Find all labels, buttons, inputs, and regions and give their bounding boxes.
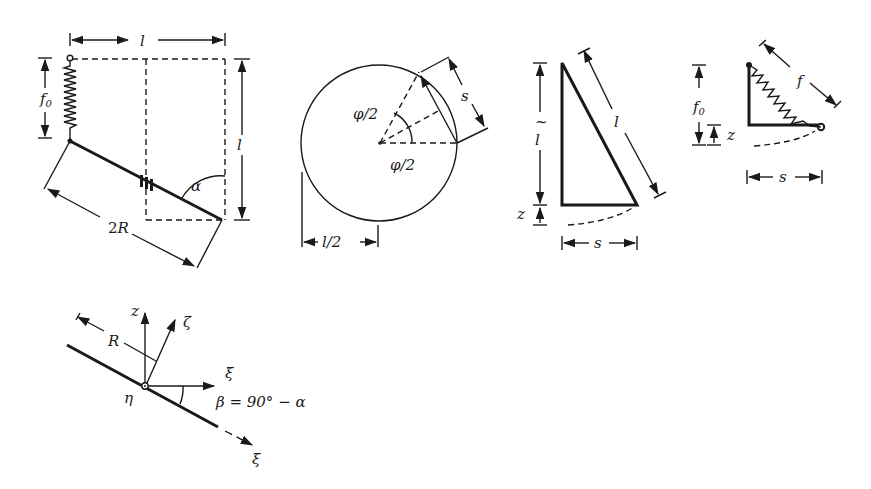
label-horizontal: s <box>594 234 602 252</box>
label-horizontal: s <box>779 168 787 186</box>
label-rod-length: 2R <box>108 219 129 237</box>
label-upper-angle: φ/2 <box>353 105 378 123</box>
label-drop: z <box>516 205 525 223</box>
spring-icon <box>749 65 821 127</box>
panel-triangle-pendulum: ~ l z l s <box>516 48 666 252</box>
spring-icon <box>64 61 76 140</box>
label-angle-alpha: α <box>191 177 201 195</box>
panel-pendulum-spring-rod: l l f0 α 2R <box>38 32 250 268</box>
mechanics-figure: l l f0 α 2R <box>0 0 871 489</box>
label-xi-axis: ξ <box>252 450 261 468</box>
triangle <box>749 65 820 125</box>
label-chord: s <box>461 87 469 105</box>
label-drop: z <box>726 126 735 144</box>
panel-coordinate-frame: z ζ ξ̄ β = 90° − α η ξ R <box>67 302 306 468</box>
label-hypotenuse: l <box>614 113 619 131</box>
panel-triangle-spring: f f0 z s <box>692 40 841 186</box>
label-right-height: l <box>237 136 242 154</box>
label-vertical: l <box>535 131 540 149</box>
label-radius-dim: l/2 <box>322 233 341 251</box>
label-vertical: f0 <box>692 98 706 117</box>
label-radius: R <box>107 332 119 350</box>
label-zeta-axis: ζ <box>183 313 192 331</box>
panel-circle-chord: φ/2 φ/2 s l/2 <box>301 57 488 251</box>
label-top-width: l <box>140 32 145 50</box>
label-beta-relation: β = 90° − α <box>215 393 306 411</box>
label-xi-bar-axis: ξ̄ <box>225 364 234 382</box>
label-spring-length: f0 <box>39 90 53 109</box>
pivot-icon <box>67 55 73 61</box>
label-lower-angle: φ/2 <box>390 156 415 174</box>
label-eta-axis: η <box>124 389 133 407</box>
label-z-axis: z <box>130 302 139 320</box>
label-spring: f <box>796 72 805 90</box>
label-tilde: ~ <box>535 113 548 131</box>
